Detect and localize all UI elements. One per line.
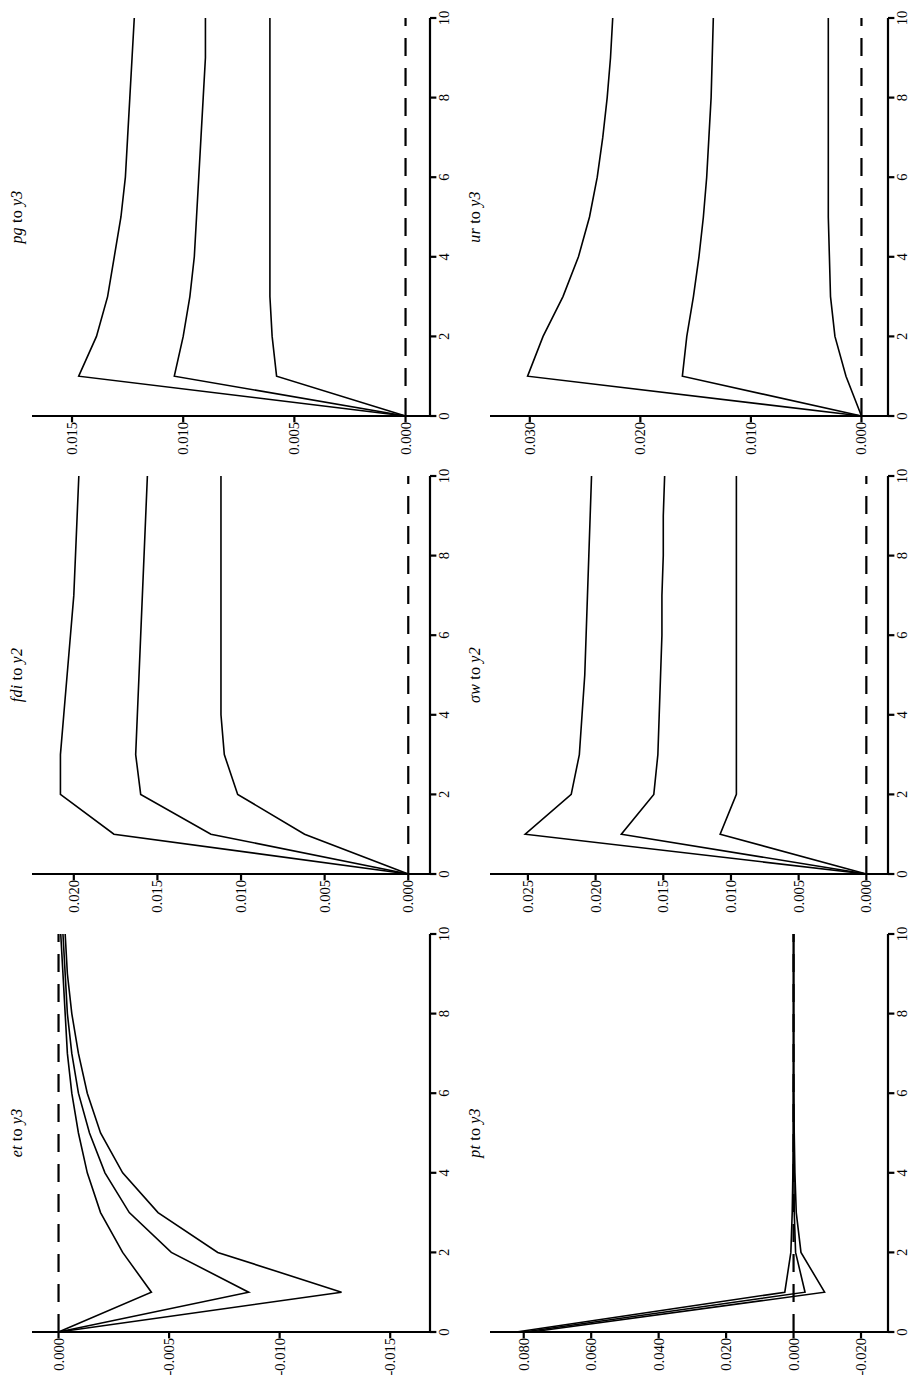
series-line-lower-band [828,18,861,416]
series-line-median [174,18,405,416]
x-tick-label: 6 [436,632,453,639]
impulse-label: ur [466,228,483,243]
plot-canvas [490,934,888,1332]
plot-canvas [490,476,888,874]
panel-ur-to-y3: ur to y30.0300.0200.0100.0000246810 [464,10,912,468]
response-label: y3 [8,190,25,206]
series-line-lower-band [59,934,342,1332]
series-line-upper-band [525,476,866,874]
series-line-upper-band [59,934,152,1332]
y-tick-label: 0.015 [64,422,81,455]
series-line-upper-band [516,934,793,1332]
y-tick-label: -0.010 [271,1338,288,1375]
plot-area: 0.0300.0200.0100.0000246810 [490,18,888,416]
y-tick-label: 0.005 [790,880,807,913]
response-label: y3 [466,191,483,207]
y-tick-label: 0.060 [583,1338,600,1371]
x-tick-label: 4 [436,253,453,260]
y-tick-label: -0.020 [853,1338,870,1375]
title-connector: to [8,206,25,227]
panel-title: pg to y3 [8,18,26,416]
plot-canvas [490,18,888,416]
title-connector: to [466,207,483,228]
impulse-label: σw [466,684,483,703]
x-tick-label: 10 [894,11,911,26]
y-tick-label: 0.005 [316,880,333,913]
plot-area: 0.0250.0200.0150.0100.0050.0000246810 [490,476,888,874]
x-tick-label: 4 [894,711,911,718]
y-tick-label: 0.000 [400,880,417,913]
title-connector: to [466,663,483,684]
panel-title: ur to y3 [466,18,484,416]
impulse-label: fdi [8,685,25,703]
x-tick-label: 4 [894,1169,911,1176]
series-line-lower-band [221,476,408,874]
x-tick-label: 4 [436,1169,453,1176]
x-tick-label: 6 [436,1090,453,1097]
plot-canvas [32,934,430,1332]
x-axis-tick-labels: 0246810 [434,934,460,1332]
y-axis-tick-labels: 0.0800.0600.0400.0200.000-0.020 [490,1336,888,1382]
y-axis-tick-labels: 0.000-0.005-0.010-0.015 [32,1336,430,1382]
x-tick-label: 8 [436,552,453,559]
x-tick-label: 8 [894,552,911,559]
x-tick-label: 10 [436,469,453,484]
y-tick-label: 0.080 [515,1338,532,1371]
y-tick-label: 0.010 [175,422,192,455]
y-tick-label: -0.005 [161,1338,178,1375]
y-tick-label: 0.020 [65,880,82,913]
x-tick-label: 6 [436,174,453,181]
panel-fdi-to-y2: fdi to y20.0200.0150.0100.0050.000024681… [6,468,464,926]
x-tick-label: 6 [894,1090,911,1097]
y-tick-label: 0.040 [650,1338,667,1371]
y-tick-label: 0.000 [397,422,414,455]
series-line-upper-band [79,18,406,416]
x-tick-label: 2 [894,333,911,340]
y-axis-tick-labels: 0.0250.0200.0150.0100.0050.000 [490,878,888,924]
panel-σw-to-y2: σw to y20.0250.0200.0150.0100.0050.00002… [464,468,912,926]
panel-title: et to y3 [8,934,26,1332]
response-label: y2 [8,648,25,664]
x-axis-tick-labels: 0246810 [892,934,912,1332]
x-tick-label: 6 [894,174,911,181]
y-tick-label: 0.020 [587,880,604,913]
x-tick-label: 10 [436,11,453,26]
impulse-label: pt [466,1145,483,1158]
x-tick-label: 4 [894,253,911,260]
y-tick-label: 0.015 [149,880,166,913]
x-tick-label: 0 [894,412,911,419]
series-line-lower-band [720,476,866,874]
x-tick-label: 2 [436,1249,453,1256]
x-tick-label: 2 [894,1249,911,1256]
x-tick-label: 8 [894,94,911,101]
plot-area: 0.0200.0150.0100.0050.0000246810 [32,476,430,874]
series-line-lower-band [531,934,824,1332]
impulse-label: pg [8,227,25,243]
series-line-median [682,18,861,416]
x-tick-label: 2 [436,791,453,798]
series-line-upper-band [60,476,408,874]
series-line-median [524,934,805,1332]
y-tick-label: 0.010 [722,880,739,913]
x-axis-tick-labels: 0246810 [892,18,912,416]
plot-area: 0.0150.0100.0050.0000246810 [32,18,430,416]
series-line-lower-band [270,18,406,416]
x-tick-label: 10 [894,927,911,942]
series-line-upper-band [528,18,862,416]
panel-title: σw to y2 [466,476,484,874]
x-tick-label: 0 [436,870,453,877]
x-tick-label: 0 [894,870,911,877]
x-tick-label: 8 [436,1010,453,1017]
response-label: y3 [466,1108,483,1124]
x-tick-label: 2 [436,333,453,340]
impulse-label: et [8,1145,25,1157]
x-tick-label: 4 [436,711,453,718]
y-tick-label: 0.030 [521,422,538,455]
title-connector: to [466,1124,483,1145]
x-axis-tick-labels: 0246810 [434,18,460,416]
panel-pt-to-y3: pt to y30.0800.0600.0400.0200.000-0.0200… [464,926,912,1384]
x-tick-label: 6 [894,632,911,639]
y-tick-label: -0.015 [382,1338,399,1375]
y-tick-label: 0.000 [50,1338,67,1371]
